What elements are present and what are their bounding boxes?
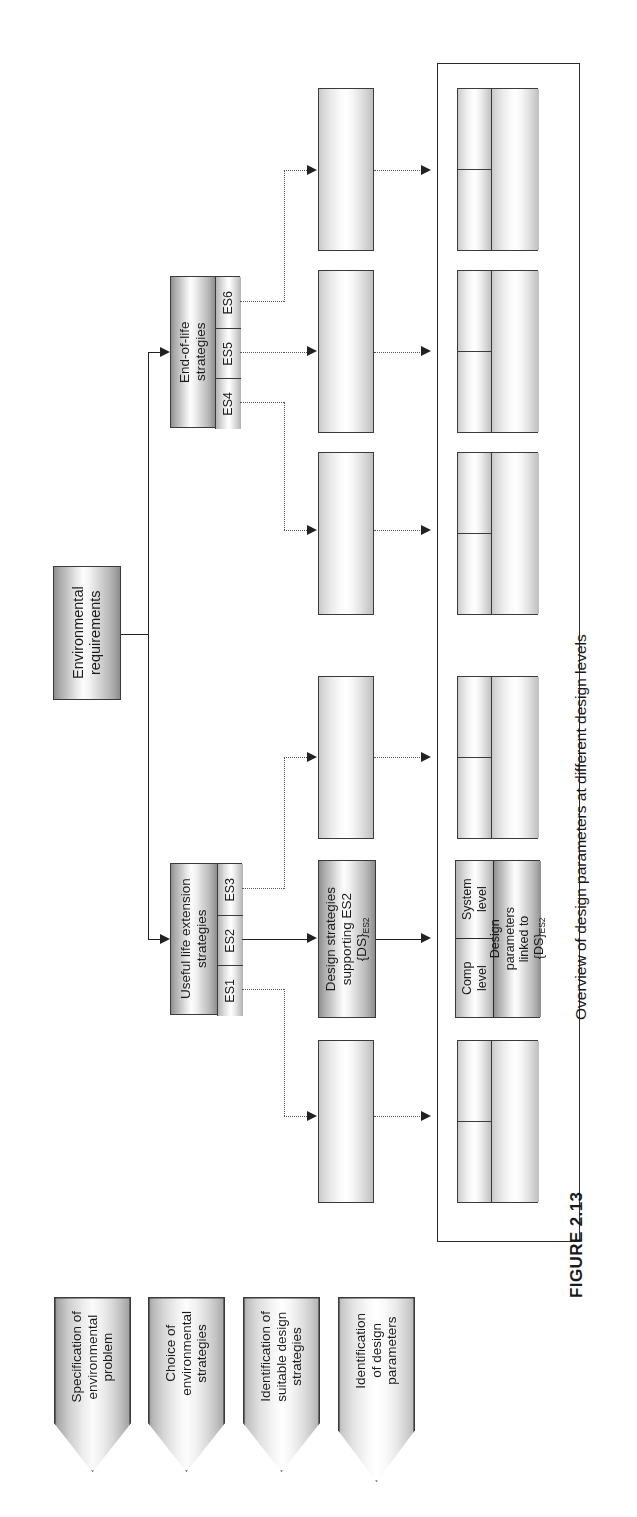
dash-es6-b	[284, 170, 285, 302]
design-strategy-box-blank[interactable]	[318, 676, 374, 839]
connector-trunk-down	[148, 634, 149, 939]
dash-es1-b	[284, 989, 285, 1116]
strategy-item-es2-label: ES2	[218, 916, 243, 966]
dp-cell-comp	[458, 352, 491, 433]
design-strategy-box-blank[interactable]	[318, 1040, 374, 1203]
dp-cell-system	[458, 453, 491, 534]
dp-cell-body	[491, 1041, 539, 1202]
design-parameters-linked-to-es2[interactable]: System level Comp level Design parameter…	[455, 860, 540, 1018]
dash-es4-c	[284, 530, 309, 531]
strategy-item-es3[interactable]: ES3	[217, 864, 243, 915]
dp-cell-system	[458, 677, 491, 758]
dp-cell-body	[491, 89, 539, 250]
dp-cell-comp	[458, 1122, 491, 1203]
strategy-item-es3-label: ES3	[218, 864, 243, 915]
phase-chevron-2-label: Choice of environmental strategies	[163, 1311, 210, 1396]
phase-chevron-3[interactable]: Identification of suitable design strate…	[243, 1297, 320, 1472]
design-parameter-box-blank[interactable]	[457, 1040, 538, 1203]
strategy-item-es1-label: ES1	[218, 966, 243, 1016]
strategy-item-es6-label: ES6	[216, 277, 241, 328]
dp-cell-body	[491, 677, 539, 838]
arrow-ds1-to-dp	[421, 165, 431, 175]
ds-line1: Design strategies	[323, 887, 338, 991]
design-strategy-box-blank[interactable]	[318, 270, 374, 433]
dash-es3-c	[284, 757, 309, 758]
arrow-es3-to-ds	[307, 752, 317, 762]
dash-es5-c	[284, 352, 309, 353]
group-useful-life-extension[interactable]: Useful life extension strategies ES1 ES2…	[170, 863, 242, 1015]
arrow-es6-to-ds	[307, 165, 317, 175]
design-parameter-box-blank[interactable]	[457, 88, 538, 251]
dash-ds3-out	[374, 530, 422, 531]
group-end-of-life-title-cell: End-of-life strategies	[171, 277, 215, 427]
design-parameter-box-blank[interactable]	[457, 676, 538, 839]
dash-ds2-out	[374, 352, 422, 353]
dash-es1-c	[284, 1116, 309, 1117]
strategy-item-es6[interactable]: ES6	[215, 277, 241, 328]
overview-frame-label: Overview of design parameters at differe…	[572, 634, 590, 1020]
arrow-ds2-to-dp	[421, 346, 431, 356]
dp-cell-system	[458, 89, 491, 170]
phase-chevron-1[interactable]: Specification of environmental problem	[54, 1297, 131, 1472]
connector-root-out	[121, 634, 148, 635]
dp-cell-system	[458, 271, 491, 352]
ds-line3-main: {DS}	[354, 933, 369, 961]
arrow-to-end-of-life	[160, 347, 170, 357]
design-strategies-supporting-es2-label: Design strategies supporting ES2 {DS}ES2	[323, 887, 372, 991]
dash-es3-b	[284, 757, 285, 889]
dp-cell-body	[491, 453, 539, 614]
strategy-item-es5-label: ES5	[216, 329, 241, 379]
dash-ds6-out	[374, 1116, 422, 1117]
dp-line3: linked to	[517, 916, 531, 963]
arrow-ds-es2-to-dp	[421, 933, 431, 943]
strategy-item-es5[interactable]: ES5	[215, 328, 241, 379]
ds-line2: supporting ES2	[338, 893, 353, 985]
design-strategies-supporting-es2[interactable]: Design strategies supporting ES2 {DS}ES2	[318, 860, 376, 1018]
phase-chevron-3-label: Identification of suitable design strate…	[258, 1311, 305, 1402]
connector-trunk-up	[148, 352, 149, 635]
dash-es6-a	[240, 301, 284, 302]
arrow-es2-to-ds	[307, 933, 317, 943]
arrow-ds4-to-dp	[421, 752, 431, 762]
dp-cell-system	[458, 1041, 491, 1122]
group-useful-life-extension-label: Useful life extension strategies	[171, 864, 217, 1014]
phase-chevron-4[interactable]: Identification of design parameters	[338, 1297, 415, 1482]
dp-cell-body	[491, 271, 539, 432]
arrow-es4-to-ds	[307, 525, 317, 535]
group-useful-life-extension-title-cell: Useful life extension strategies	[171, 864, 217, 1014]
strategy-item-es2[interactable]: ES2	[217, 915, 243, 966]
figure-caption: FIGURE 2.13	[567, 1192, 587, 1298]
dp-line1: Design	[488, 920, 502, 959]
dash-es3-a	[242, 888, 284, 889]
design-parameter-box-blank[interactable]	[457, 452, 538, 615]
group-end-of-life[interactable]: End-of-life strategies ES4 ES5 ES6	[170, 276, 240, 428]
dash-es4-b	[284, 402, 285, 530]
arrow-to-useful-life-extension	[160, 934, 170, 944]
strategy-item-es4-label: ES4	[216, 379, 241, 429]
dp-line4-main: {DS}	[531, 934, 545, 960]
dp-line2: parameters	[502, 907, 516, 970]
group-end-of-life-label: End-of-life strategies	[171, 277, 215, 427]
design-parameters-linked-to-es2-label: Design parameters linked to {DS}ES2	[488, 907, 548, 970]
dash-ds1-out	[374, 170, 422, 171]
design-parameter-box-blank[interactable]	[457, 270, 538, 433]
phase-chevron-1-label: Specification of environmental problem	[69, 1311, 116, 1403]
phase-chevron-4-label: Identification of design parameters	[353, 1313, 400, 1389]
arrow-ds3-to-dp	[421, 525, 431, 535]
design-strategy-box-blank[interactable]	[318, 452, 374, 615]
dash-ds4-out	[374, 757, 422, 758]
phase-chevron-2[interactable]: Choice of environmental strategies	[148, 1297, 225, 1472]
arrow-es5-to-ds	[307, 346, 317, 356]
strategy-item-es4[interactable]: ES4	[215, 378, 241, 429]
node-environmental-requirements[interactable]: Environmental requirements	[53, 566, 121, 700]
design-strategy-box-blank[interactable]	[318, 88, 374, 251]
dp-line4-sub: ES2	[537, 918, 547, 934]
dp-cell-comp	[458, 534, 491, 615]
dp-cell-comp	[458, 170, 491, 251]
dash-es6-c	[284, 170, 309, 171]
dash-es1-a	[242, 989, 284, 990]
connector-ds-es2-to-dp	[376, 939, 422, 940]
arrow-es1-to-ds	[307, 1111, 317, 1121]
arrow-ds6-to-dp	[421, 1111, 431, 1121]
strategy-item-es1[interactable]: ES1	[217, 965, 243, 1016]
